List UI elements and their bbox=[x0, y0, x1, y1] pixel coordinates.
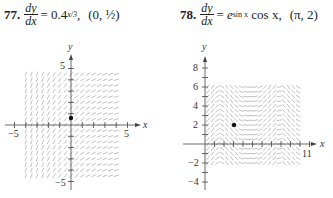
axes-78 bbox=[183, 56, 317, 190]
y-tick-label: 6 bbox=[193, 81, 198, 92]
y-tick-label: −5 bbox=[55, 177, 66, 188]
initial-point-marker bbox=[232, 123, 236, 127]
x-tick-label: 5 bbox=[124, 128, 129, 139]
slope-field-78 bbox=[206, 85, 300, 165]
y-tick-label: 8 bbox=[193, 62, 198, 73]
axes-77 bbox=[5, 54, 141, 190]
y-tick-label: 5 bbox=[60, 60, 65, 71]
slope-field-graphs: x y −5 5 5 −5 x y 11 8 6 4 2 −2 −4 bbox=[0, 0, 333, 198]
x-tick-label: 11 bbox=[302, 148, 312, 159]
initial-point-marker bbox=[69, 116, 73, 120]
y-axis-label: y bbox=[201, 41, 207, 52]
y-tick-label: −2 bbox=[188, 157, 199, 168]
x-axis-label: x bbox=[319, 138, 325, 149]
x-axis-label: x bbox=[142, 119, 148, 130]
y-axis-label: y bbox=[67, 41, 73, 52]
x-tick-label: −5 bbox=[8, 128, 19, 139]
y-tick-label: 4 bbox=[193, 100, 198, 111]
y-tick-label: −4 bbox=[188, 176, 199, 187]
y-tick-label: 2 bbox=[193, 119, 198, 130]
